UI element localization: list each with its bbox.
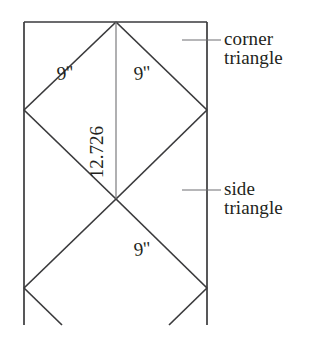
measurement-upper-left-edge: 9" — [56, 61, 75, 84]
callout-corner-triangle-line1: corner — [224, 29, 283, 48]
callout-corner-triangle-line2: triangle — [224, 48, 283, 67]
measurement-upper-right-edge: 9" — [133, 61, 152, 84]
quilt-diagram: 9" 9" 12.726 9" corner triangle side tri… — [0, 0, 329, 339]
callout-side-triangle-line1: side — [224, 179, 283, 198]
callout-side-triangle: side triangle — [224, 179, 283, 217]
callout-corner-triangle: corner triangle — [224, 29, 283, 67]
measurement-center-height: 12.726 — [86, 126, 107, 178]
callout-side-triangle-line2: triangle — [224, 198, 283, 217]
measurement-lower-right-edge: 9" — [133, 237, 152, 260]
